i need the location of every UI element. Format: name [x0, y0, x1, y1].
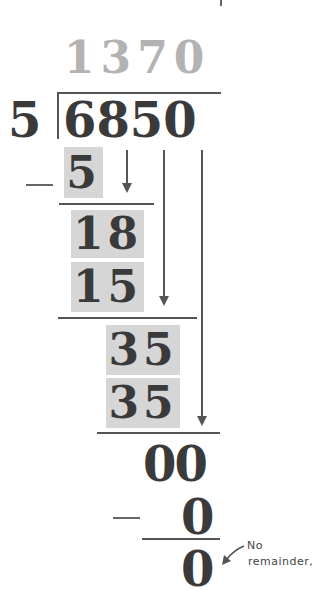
partial-value-00: 00 — [143, 440, 206, 488]
division-bracket-vertical — [57, 93, 59, 139]
underline-4 — [142, 538, 220, 540]
arrow-down-icon — [163, 150, 165, 298]
arrow-down-icon-head — [122, 183, 132, 193]
minus-sign — [113, 517, 140, 519]
subtract-value-1: 5 — [64, 147, 103, 198]
underline-2 — [58, 317, 197, 319]
dividend: 6850 — [63, 96, 197, 144]
arrow-down-icon — [201, 150, 203, 418]
arrow-down-icon-head — [197, 416, 207, 426]
annotation-line-2: remainder, — [248, 555, 313, 569]
arrow-down-icon — [126, 150, 128, 186]
minus-sign — [26, 184, 53, 186]
arrow-down-left-icon — [218, 542, 248, 568]
annotation-line-1: No — [247, 539, 263, 553]
remainder-value: 0 — [181, 545, 215, 591]
partial-value-35: 35 — [106, 325, 180, 375]
quotient: 1370 — [64, 36, 210, 80]
subtract-value-35: 35 — [106, 378, 180, 428]
arrow-down-icon-head — [159, 296, 169, 306]
subtract-value-0: 0 — [181, 493, 215, 541]
stray-mark — [220, 0, 222, 6]
partial-value-18: 18 — [71, 210, 144, 258]
underline-1 — [59, 203, 154, 205]
underline-3 — [97, 432, 220, 434]
divisor: 5 — [8, 96, 42, 144]
subtract-value-15: 15 — [71, 262, 144, 312]
